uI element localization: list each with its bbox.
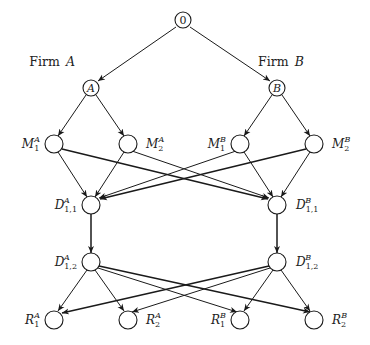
node-b: B (269, 80, 285, 96)
node-r2a: R2A (119, 311, 161, 329)
svg-text:M1B: M1B (207, 135, 226, 153)
edges-d2-r (58, 266, 310, 313)
svg-text:D1,1B: D1,1B (295, 196, 318, 214)
svg-text:D1,1A: D1,1A (54, 196, 77, 214)
node-m1a: M1A (21, 135, 63, 153)
node-a: A (83, 80, 99, 96)
svg-text:M2B: M2B (331, 135, 350, 153)
svg-text:D1,2A: D1,2A (54, 253, 77, 271)
node-m2a: M2A (119, 135, 164, 153)
node-r1a: R1A (24, 311, 63, 329)
edges-root (98, 27, 270, 81)
node-d12a: D1,2A (54, 253, 100, 271)
node-root: 0 (175, 12, 191, 28)
root-label: 0 (180, 14, 187, 27)
node-r2b: R2B (305, 311, 347, 329)
edges-m-d1 (58, 149, 310, 199)
tree-diagram: 0 Firm A Firm B A B M1A M2A M1B (0, 0, 370, 345)
node-d12b: D1,2B (268, 253, 318, 271)
svg-text:A: A (86, 82, 95, 95)
svg-text:R2B: R2B (331, 311, 347, 329)
node-m1b: M1B (207, 135, 249, 153)
edges-firm-m (58, 95, 310, 136)
firm-a-label: Firm A (29, 54, 75, 69)
node-d11b: D1,1B (268, 196, 318, 214)
edges-d1-d2 (91, 214, 277, 253)
svg-text:Firm A: Firm A (29, 54, 75, 69)
svg-text:R1A: R1A (24, 311, 40, 329)
svg-text:M1A: M1A (21, 135, 40, 153)
node-d11a: D1,1A (54, 196, 100, 214)
svg-text:D1,2B: D1,2B (295, 253, 318, 271)
svg-text:Firm B: Firm B (258, 54, 304, 69)
svg-text:B: B (272, 82, 281, 95)
svg-text:R2A: R2A (145, 311, 161, 329)
firm-b-label: Firm B (258, 54, 304, 69)
node-m2b: M2B (305, 135, 350, 153)
node-r1b: R1B (210, 311, 249, 329)
svg-text:M2A: M2A (145, 135, 164, 153)
diagram-svg: 0 Firm A Firm B A B M1A M2A M1B (0, 0, 370, 345)
svg-text:R1B: R1B (210, 311, 226, 329)
